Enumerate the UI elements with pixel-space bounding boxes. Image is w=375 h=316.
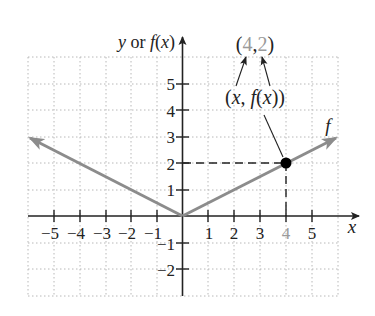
leader-arrow-x xyxy=(236,57,246,86)
x-tick-label: −4 xyxy=(67,224,86,243)
x-tick-labels: −5 −4 −3 −2 −1 1 2 3 4 5 xyxy=(41,224,316,243)
x-tick-label: −5 xyxy=(41,224,59,243)
x-tick-label: 2 xyxy=(230,224,239,243)
x-axis-label: x xyxy=(347,216,357,237)
y-tick-labels: 5 4 3 2 1 −1 −2 xyxy=(157,75,176,280)
y-tick-label: −1 xyxy=(157,235,175,254)
leader-arrow-y xyxy=(262,57,270,86)
y-tick-label: 5 xyxy=(167,75,176,94)
x-tick-label-highlight: 4 xyxy=(282,224,291,243)
leader-line xyxy=(264,115,283,157)
x-tick-label: 5 xyxy=(308,224,317,243)
y-tick-label: −2 xyxy=(157,261,175,280)
y-axis-label-text: y or f(x) xyxy=(116,32,175,53)
x-tick-label: 1 xyxy=(205,224,214,243)
x-tick-label: 3 xyxy=(256,224,265,243)
y-tick-label: 3 xyxy=(167,128,176,147)
point-4-2 xyxy=(281,158,292,169)
point-coordinates-label: (4,2) xyxy=(236,33,274,56)
x-tick-label: −2 xyxy=(118,224,136,243)
y-tick-label: 1 xyxy=(167,181,176,200)
chart: −5 −4 −3 −2 −1 1 2 3 4 5 5 4 3 2 1 −1 −2… xyxy=(0,0,375,316)
generic-point-label: (x, f(x)) xyxy=(225,86,285,109)
curve-label-f: f xyxy=(325,115,333,136)
y-axis-label: y or f(x) xyxy=(116,32,175,53)
x-tick-label: −3 xyxy=(93,224,111,243)
y-tick-label: 2 xyxy=(167,155,176,174)
y-tick-label: 4 xyxy=(167,102,176,121)
